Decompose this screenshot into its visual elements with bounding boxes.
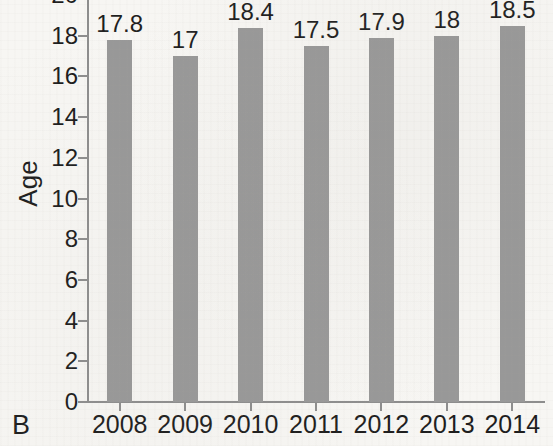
y-axis-tick-label: 20 <box>8 0 78 9</box>
bar <box>369 38 394 402</box>
x-axis-tick-label: 2013 <box>411 410 483 439</box>
x-axis-tick-label: 2011 <box>280 410 352 439</box>
x-axis-tick-label: 2009 <box>149 410 221 439</box>
y-axis-tick-label: 8 <box>8 225 78 253</box>
bar <box>434 36 459 402</box>
y-axis-tick-mark <box>78 360 87 362</box>
y-axis-tick-label: 6 <box>8 266 78 294</box>
bar <box>500 26 525 402</box>
bar <box>238 28 263 402</box>
y-axis-tick-label: 16 <box>8 62 78 90</box>
y-axis-tick-group: 02468101214161820 <box>0 0 78 446</box>
y-axis-tick-mark <box>78 401 87 403</box>
bar-chart-panel-b: Age B 02468101214161820 17.81718.417.517… <box>0 0 553 446</box>
x-axis-tick-label: 2008 <box>84 410 156 439</box>
bar <box>107 40 132 402</box>
y-axis-tick-mark <box>78 320 87 322</box>
plot-area: 17.81718.417.517.91818.5 <box>87 0 545 402</box>
y-axis-tick-mark <box>78 116 87 118</box>
bar-value-label: 17 <box>145 26 225 54</box>
y-axis-tick-label: 2 <box>8 347 78 375</box>
y-axis-tick-mark <box>78 157 87 159</box>
y-axis-tick-mark <box>78 279 87 281</box>
y-axis-tick-label: 14 <box>8 103 78 131</box>
y-axis-tick-mark <box>78 75 87 77</box>
y-axis-tick-label: 18 <box>8 22 78 50</box>
y-axis-tick-label: 10 <box>8 185 78 213</box>
y-axis-tick-mark <box>78 238 87 240</box>
bar-value-label: 18.5 <box>472 0 552 24</box>
y-axis-tick-mark <box>78 198 87 200</box>
y-axis-tick-label: 4 <box>8 307 78 335</box>
bar <box>304 46 329 402</box>
bar <box>173 56 198 402</box>
x-axis-tick-label: 2010 <box>215 410 287 439</box>
y-axis-tick-label: 12 <box>8 144 78 172</box>
y-axis-tick-mark <box>78 35 87 37</box>
x-axis-tick-label: 2012 <box>345 410 417 439</box>
y-axis-tick-label: 0 <box>8 388 78 416</box>
x-axis-tick-label: 2014 <box>476 410 548 439</box>
